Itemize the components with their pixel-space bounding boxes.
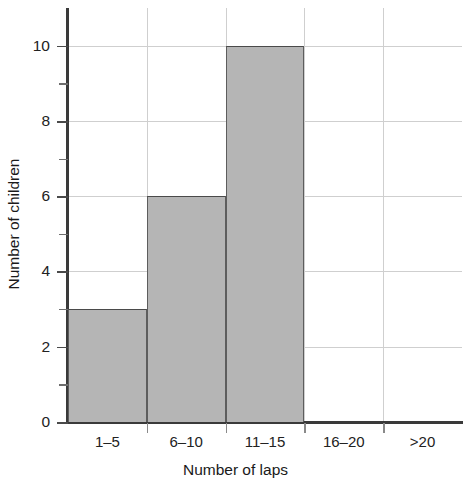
y-axis-minor-tick	[59, 234, 68, 235]
x-axis-tick-label: 1–5	[62, 433, 152, 451]
y-axis-tick-label: 6	[0, 188, 50, 204]
y-axis-major-tick	[57, 347, 68, 349]
y-axis-minor-tick	[59, 159, 68, 160]
y-axis-tick-label: 0	[0, 414, 50, 430]
histogram-bar	[226, 46, 305, 422]
x-axis-title: Number of laps	[0, 461, 471, 479]
x-axis-tick-label: 6–10	[141, 433, 231, 451]
x-axis-tick	[383, 423, 384, 433]
y-axis-major-tick	[57, 121, 68, 123]
x-axis-tick-label: >20	[378, 433, 468, 451]
x-axis-tick-label: 11–15	[220, 433, 310, 451]
gridline-vertical	[304, 8, 305, 422]
y-axis-tick-label: 8	[0, 113, 50, 129]
x-axis-tick	[226, 423, 227, 433]
y-axis-tick-label: 4	[0, 263, 50, 279]
histogram-bar	[68, 309, 147, 422]
gridline-vertical	[383, 8, 384, 422]
y-axis-major-tick	[57, 196, 68, 198]
y-axis-tick-label: 2	[0, 339, 50, 355]
histogram-bar	[147, 196, 226, 422]
y-axis-major-tick	[57, 422, 68, 424]
y-axis-major-tick	[57, 271, 68, 273]
y-axis-title: Number of children	[5, 124, 23, 324]
x-axis-tick-label: 16–20	[299, 433, 389, 451]
y-axis-minor-tick	[59, 309, 68, 310]
y-axis-minor-tick	[59, 83, 68, 84]
y-axis-major-tick	[57, 46, 68, 48]
x-axis-tick	[304, 423, 305, 433]
histogram-chart: Number of laps Number of children 024681…	[0, 0, 471, 487]
y-axis-minor-tick	[59, 384, 68, 385]
y-axis-tick-label: 10	[0, 38, 50, 54]
x-axis-tick	[147, 423, 148, 433]
